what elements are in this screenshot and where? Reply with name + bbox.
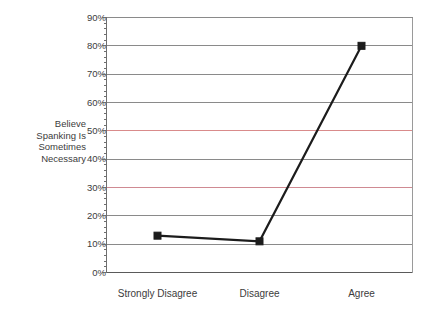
line-chart: Believe Spanking Is Sometimes Necessary … [0,0,447,314]
gridlines [107,18,413,245]
data-series [158,46,362,242]
plot-area [0,0,447,314]
data-point-markers [154,42,365,245]
data-point-marker-0 [154,232,161,239]
y-axis-major-ticks [102,18,107,273]
data-point-marker-1 [256,238,263,245]
series-line [158,46,362,242]
data-point-marker-2 [358,42,365,49]
x-axis-tick-label-1: Disagree [239,288,279,300]
x-axis-tick-label-2: Agree [348,288,375,300]
x-axis-tick-labels: Strongly DisagreeDisagreeAgree [106,288,413,308]
x-axis-tick-label-0: Strongly Disagree [118,288,197,300]
axis-lines [107,18,413,273]
